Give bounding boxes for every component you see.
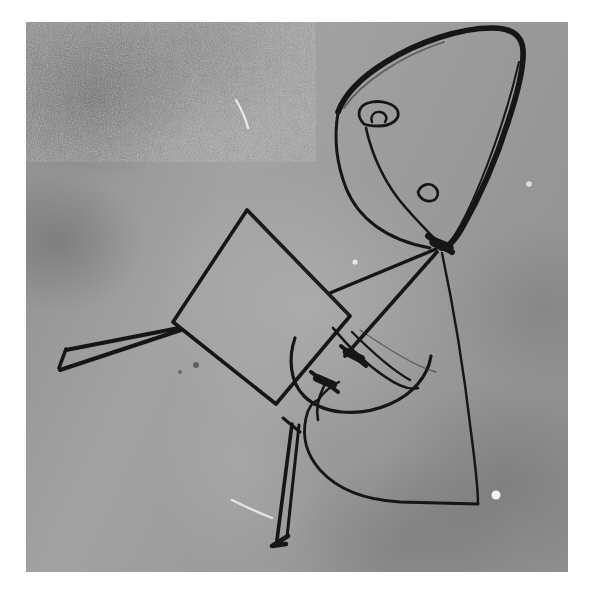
skirt-bottom-curve — [305, 400, 478, 504]
eye-loop — [359, 102, 398, 126]
nose-loop — [418, 184, 438, 201]
head-inner-contour — [448, 62, 519, 244]
leg-foot-hook — [272, 536, 288, 546]
eye-inner-tick — [371, 112, 386, 122]
photograph-print — [26, 22, 568, 572]
skirt-right-edge — [442, 253, 478, 504]
left-arm-tip — [59, 349, 66, 368]
body-quadrilateral — [173, 210, 350, 404]
body-ghost-pass — [250, 214, 348, 314]
head-outline — [338, 28, 523, 248]
screenshot-root: Grainy black-and-white photograph of an … — [0, 0, 597, 600]
ink-drawing — [26, 22, 568, 572]
head-ghost-pass — [344, 42, 444, 108]
left-arm-upper-line — [66, 328, 179, 350]
head-left-contour — [336, 113, 430, 248]
left-arm-lower-line — [60, 330, 181, 370]
hand-to-skirt-connector — [317, 386, 324, 420]
